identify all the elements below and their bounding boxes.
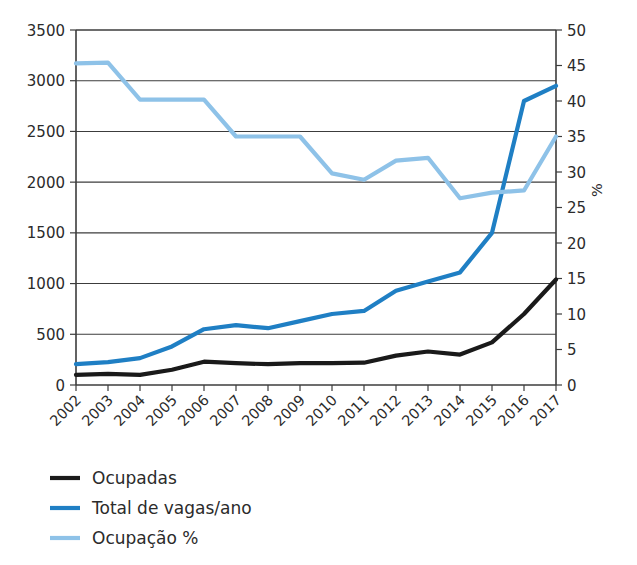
right-axis-tick-label: 35 [567, 128, 586, 146]
category-axis-label: 2012 [367, 392, 404, 429]
series-line [76, 86, 556, 364]
right-axis-title-group: % [589, 183, 605, 197]
series-layer [76, 63, 556, 375]
right-axis-tick-label: 40 [567, 93, 586, 111]
category-axis-label: 2002 [47, 392, 84, 429]
category-axis-label: 2006 [175, 392, 212, 429]
right-axis-tick-label: 15 [567, 270, 586, 288]
category-axis-label: 2014 [431, 392, 468, 429]
left-axis-tick-label: 0 [55, 377, 65, 395]
category-axis-label: 2017 [527, 392, 564, 429]
chart-container: 3500300025002000150010005000 50454035302… [0, 0, 637, 565]
category-axis-label: 2010 [303, 392, 340, 429]
legend-item-label: Total de vagas/ano [91, 498, 252, 518]
category-axis-label: 2007 [207, 392, 244, 429]
category-axis-label: 2011 [335, 392, 372, 429]
series-line [76, 280, 556, 375]
line-chart: 3500300025002000150010005000 50454035302… [0, 0, 637, 565]
left-axis-tick-label: 1500 [27, 224, 65, 242]
plot-frame [76, 30, 556, 385]
left-axis-tick-label: 2000 [27, 174, 65, 192]
left-axis-tick-label: 1000 [27, 275, 65, 293]
category-axis-label: 2005 [143, 392, 180, 429]
right-axis-tick-label: 20 [567, 235, 586, 253]
left-axis-tick-label: 3000 [27, 72, 65, 90]
right-axis-title: % [589, 183, 605, 197]
legend-item-label: Ocupação % [92, 528, 198, 548]
right-axis-tick-label: 5 [567, 341, 577, 359]
left-axis-tick-label: 500 [36, 326, 65, 344]
left-axis-tick-label: 3500 [27, 22, 65, 40]
category-axis-label: 2015 [463, 392, 500, 429]
legend-item-label: Ocupadas [92, 468, 177, 488]
legend: OcupadasTotal de vagas/anoOcupação % [50, 468, 252, 548]
category-axis-label: 2013 [399, 392, 436, 429]
right-axis-tick-label: 0 [567, 377, 577, 395]
category-axis-label: 2008 [239, 392, 276, 429]
left-axis-tick-label: 2500 [27, 123, 65, 141]
left-axis-ticks: 3500300025002000150010005000 [27, 22, 76, 395]
right-axis-tick-label: 50 [567, 22, 586, 40]
right-axis-tick-label: 30 [567, 164, 586, 182]
right-axis-tick-label: 45 [567, 57, 586, 75]
right-axis-tick-label: 25 [567, 199, 586, 217]
category-axis-ticks: 2002200320042005200620072008200920102011… [47, 385, 564, 429]
series-line [76, 63, 556, 199]
gridlines [76, 81, 556, 335]
right-axis-ticks: 50454035302520151050 [556, 22, 586, 395]
right-axis-tick-label: 10 [567, 306, 586, 324]
category-axis-label: 2003 [79, 392, 116, 429]
category-axis-label: 2009 [271, 392, 308, 429]
category-axis-label: 2004 [111, 392, 148, 429]
category-axis-label: 2016 [495, 392, 532, 429]
